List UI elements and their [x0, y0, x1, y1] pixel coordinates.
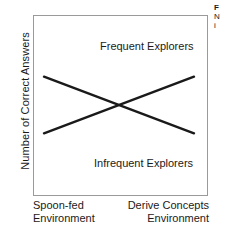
x-tick-right-line2: Environment [121, 212, 209, 225]
annotation-infrequent-explorers: Infrequent Explorers [94, 157, 193, 169]
figure-caption-cropped: F N i [214, 3, 229, 30]
x-tick-left-line2: Environment [33, 212, 95, 225]
plot-area: Frequent Explorers Infrequent Explorers [33, 15, 208, 196]
x-tick-left-line1: Spoon-fed [33, 199, 95, 212]
figure-container: Number of Correct Answers Frequent Explo… [0, 0, 229, 231]
annotation-frequent-explorers: Frequent Explorers [100, 40, 194, 52]
caption-line-2: N [214, 12, 229, 21]
x-tick-label-derive-concepts: Derive Concepts Environment [121, 199, 209, 225]
y-axis-title: Number of Correct Answers [19, 6, 31, 196]
caption-line-1: F [214, 3, 229, 12]
caption-line-3: i [214, 21, 229, 30]
x-tick-right-line1: Derive Concepts [121, 199, 209, 212]
x-tick-label-spoon-fed: Spoon-fed Environment [33, 199, 95, 225]
